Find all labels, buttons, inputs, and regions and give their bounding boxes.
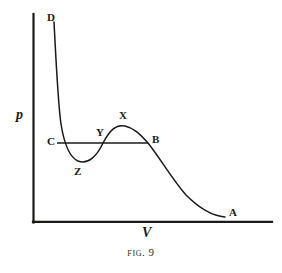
axes-group bbox=[33, 14, 272, 223]
point-label-z: Z bbox=[74, 166, 82, 177]
point-label-y: Y bbox=[96, 127, 104, 138]
figure-container: p V D C Z Y X B A Fig. 9 bbox=[0, 0, 282, 273]
point-label-b: B bbox=[152, 134, 160, 145]
x-axis-label: V bbox=[142, 226, 151, 240]
caption-number: 9 bbox=[149, 246, 155, 258]
isotherm-curve bbox=[54, 22, 225, 217]
point-label-c: C bbox=[47, 136, 55, 147]
isotherm-curve-group bbox=[54, 22, 225, 217]
figure-caption: Fig. 9 bbox=[0, 246, 282, 258]
caption-prefix: Fig. bbox=[127, 246, 145, 258]
point-label-d: D bbox=[47, 12, 55, 23]
point-label-x: X bbox=[119, 110, 127, 121]
pv-diagram-svg bbox=[0, 0, 282, 273]
y-axis-label: p bbox=[16, 108, 23, 122]
point-label-a: A bbox=[229, 207, 237, 218]
